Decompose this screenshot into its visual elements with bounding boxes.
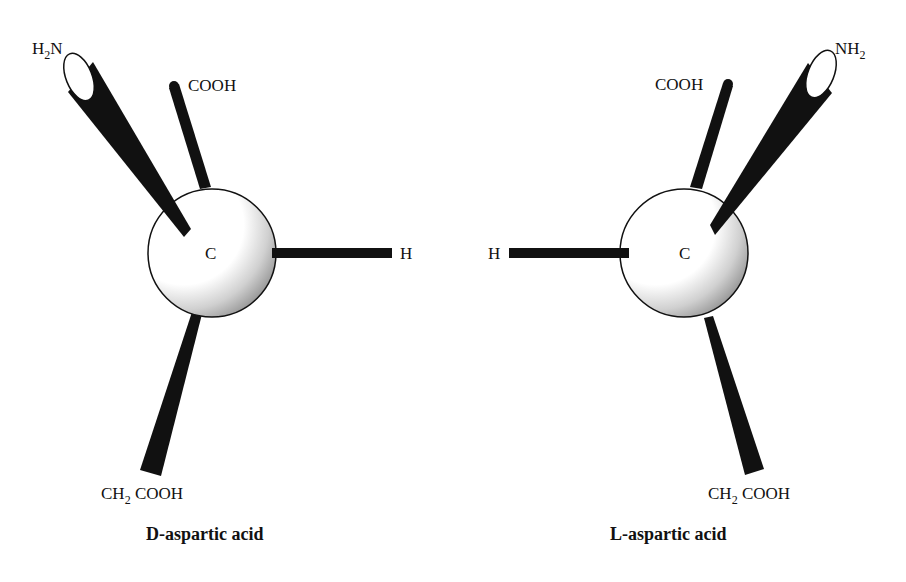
carboxyl-bond-end [169,81,179,91]
caption-d-aspartic-acid: D-aspartic acid [146,524,263,544]
side-chain-label: CH2 COOH [708,484,790,507]
molecule-d-aspartic-acid: C H2N COOH H CH2 COOH D-aspartic acid [32,39,412,544]
amino-label: NH2 [835,39,866,62]
molecule-l-aspartic-acid: C NH2 COOH H CH2 COOH L-aspartic acid [488,39,866,544]
caption-l-aspartic-acid: L-aspartic acid [610,524,727,544]
side-chain-label: CH2 COOH [101,484,183,507]
amino-label: H2N [32,39,63,62]
side-chain-wedge [140,312,202,476]
hydrogen-bond [509,248,629,258]
hydrogen-bond [272,248,392,258]
carboxyl-label: COOH [655,75,703,94]
side-chain-wedge [704,316,764,475]
carboxyl-bond-end [723,79,733,89]
aspartic-acid-enantiomers-figure: C H2N COOH H CH2 COOH D-aspartic acid C … [0,0,906,582]
hydrogen-label: H [488,244,500,263]
carboxyl-bond [690,83,733,189]
hydrogen-label: H [400,244,412,263]
carboxyl-bond [169,84,211,189]
center-atom-label: C [679,244,690,263]
carboxyl-label: COOH [188,76,236,95]
center-atom-label: C [205,244,216,263]
